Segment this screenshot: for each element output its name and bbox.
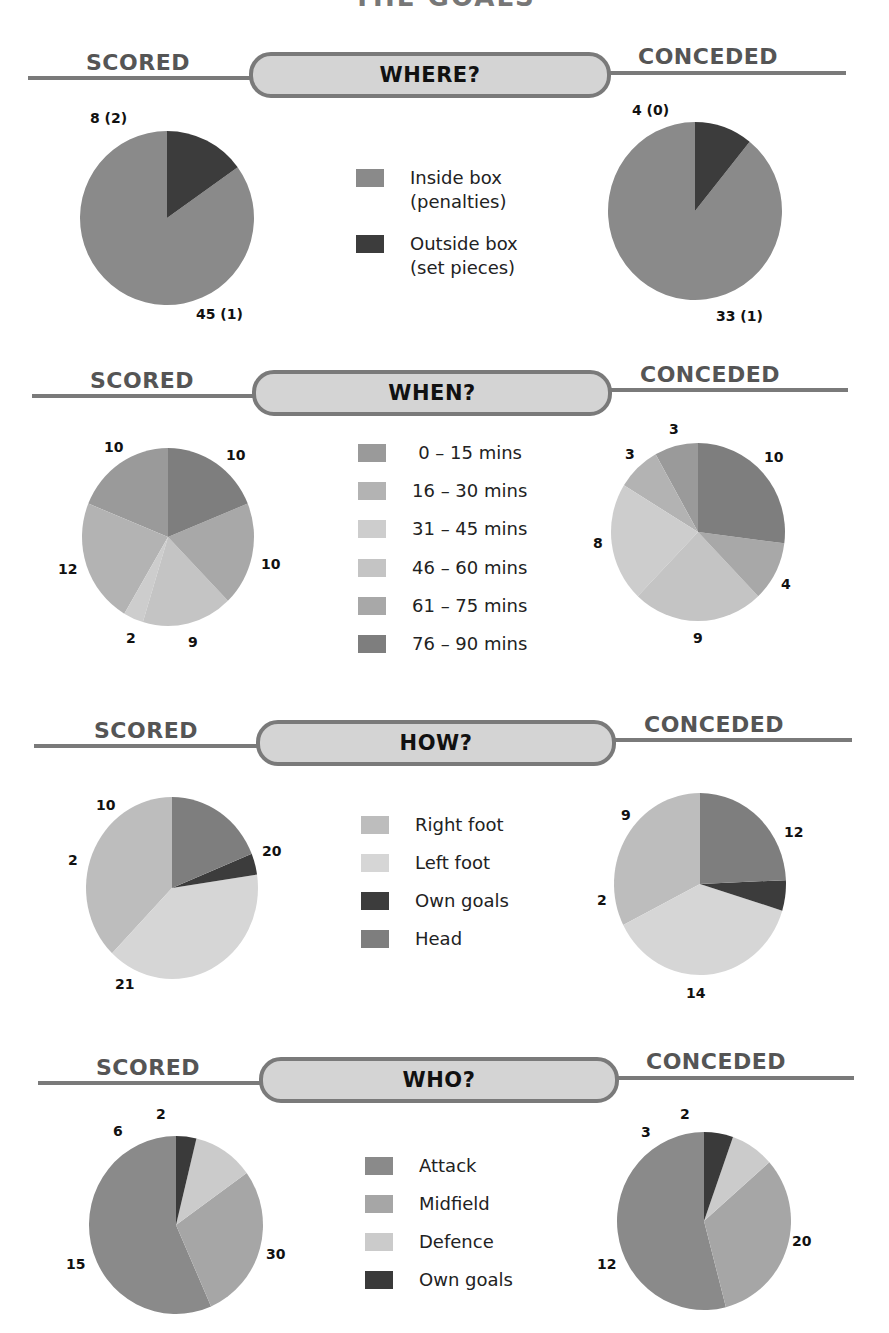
legend-label: Own goals	[419, 1268, 513, 1292]
pie-label: 3	[641, 1124, 651, 1140]
swatch-midfield	[365, 1195, 393, 1213]
rule-right	[616, 1076, 854, 1080]
section-title: WHO?	[403, 1068, 476, 1092]
pie-who-scored	[89, 1136, 263, 1314]
legend-item-defence: Defence	[365, 1230, 494, 1254]
swatch-attack	[365, 1157, 393, 1175]
legend-label: Midfield	[419, 1192, 490, 1216]
pie-label: 2	[680, 1106, 690, 1122]
legend-item-own-goals: Own goals	[365, 1268, 513, 1292]
swatch-own-goals	[365, 1271, 393, 1289]
section-title-pill: WHO?	[259, 1057, 619, 1103]
legend-label: Attack	[419, 1154, 476, 1178]
conceded-label: CONCEDED	[646, 1049, 786, 1074]
pie-label: 15	[66, 1256, 85, 1272]
pie-who-conceded	[617, 1132, 791, 1310]
pie-label: 30	[266, 1246, 285, 1262]
pie-label: 6	[113, 1123, 123, 1139]
pie-label: 20	[792, 1233, 811, 1249]
pie-label: 12	[597, 1256, 616, 1272]
section-who: SCORED CONCEDED WHO? 2 6 15 30 Attack Mi…	[0, 0, 889, 1333]
scored-label: SCORED	[96, 1055, 200, 1080]
rule-left	[38, 1081, 262, 1085]
legend-item-midfield: Midfield	[365, 1192, 490, 1216]
swatch-defence	[365, 1233, 393, 1251]
legend-label: Defence	[419, 1230, 494, 1254]
legend-item-attack: Attack	[365, 1154, 476, 1178]
pie-label: 2	[156, 1106, 166, 1122]
